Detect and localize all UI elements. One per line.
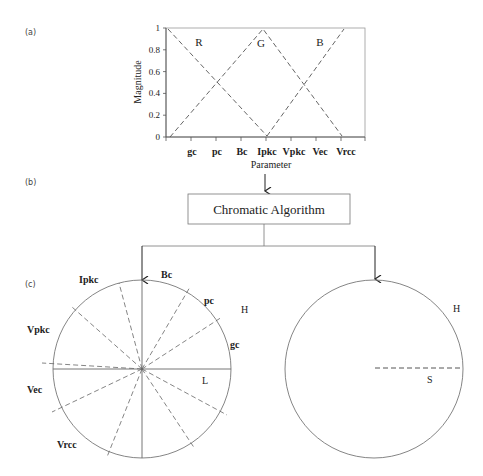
y-tick-label: 0.4 bbox=[149, 88, 161, 98]
segment-label-ipkc: Ipkc bbox=[79, 274, 99, 285]
x-category-label: gc bbox=[187, 146, 197, 157]
saturation-label: S bbox=[427, 374, 433, 385]
chromatic-algorithm-label: Chromatic Algorithm bbox=[213, 202, 325, 217]
x-category-label: Bc bbox=[236, 146, 248, 157]
series-b-line bbox=[267, 29, 344, 136]
hl-wheel: Bc pc gc Ipkc Vpkc Vec Vrcc H L bbox=[27, 269, 248, 458]
x-category-label: pc bbox=[212, 146, 223, 157]
y-tick-label: 0 bbox=[156, 132, 161, 142]
x-ticks bbox=[166, 137, 365, 141]
x-category-label: Vec bbox=[312, 146, 328, 157]
hue-label: H bbox=[241, 304, 248, 315]
segment-label-vrcc: Vrcc bbox=[57, 439, 77, 450]
x-axis-title: Parameter bbox=[251, 159, 292, 170]
panel-label-c: (c) bbox=[25, 280, 36, 289]
hue-label: H bbox=[453, 303, 460, 314]
y-tick-label: 0.6 bbox=[149, 67, 161, 77]
segment-label-gc: gc bbox=[230, 339, 240, 350]
wheel-circle bbox=[285, 280, 463, 458]
hs-wheel: H S bbox=[285, 280, 463, 458]
segment-label-bc: Bc bbox=[161, 269, 173, 280]
segment-dividers bbox=[42, 283, 227, 457]
segment-label-vec: Vec bbox=[27, 384, 43, 395]
flow-diagram: Chromatic Algorithm bbox=[142, 174, 375, 280]
segment-label-pc: pc bbox=[204, 295, 215, 306]
lightness-label: L bbox=[202, 375, 208, 386]
membership-chart: 0 0.2 0.4 0.6 0.8 1 Magnitude gc pc Bc I… bbox=[132, 23, 365, 170]
panel-label-a: (a) bbox=[25, 28, 36, 37]
y-tick-label: 1 bbox=[156, 23, 161, 33]
x-category-label: Vrcc bbox=[336, 146, 356, 157]
y-tick-label: 0.2 bbox=[149, 110, 160, 120]
figure-canvas: (a) (b) (c) 0 0.2 0.4 0.6 0.8 1 Magnitud… bbox=[0, 0, 483, 476]
segment-label-vpkc: Vpkc bbox=[27, 324, 50, 335]
y-axis-title: Magnitude bbox=[132, 60, 143, 104]
series-b-label: B bbox=[316, 36, 323, 48]
panel-label-b: (b) bbox=[25, 178, 36, 187]
x-category-label: Vpkc bbox=[283, 146, 306, 157]
x-category-label: Ipkc bbox=[257, 146, 277, 157]
series-g-label: G bbox=[257, 37, 265, 49]
y-tick-label: 0.8 bbox=[149, 45, 161, 55]
series-r-label: R bbox=[195, 36, 203, 48]
